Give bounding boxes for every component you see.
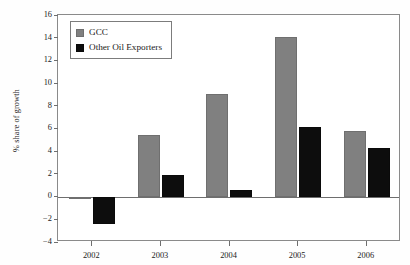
x-axis-label-2003: 2003 bbox=[130, 250, 190, 262]
y-axis-tick-label: 10 bbox=[44, 77, 52, 89]
y-axis-tick-label: 14 bbox=[44, 32, 52, 44]
x-axis: 20022003200420052006 bbox=[57, 241, 400, 265]
bar-group bbox=[264, 15, 333, 240]
y-axis-title: % share of growth bbox=[12, 46, 21, 196]
y-axis-tick-mark bbox=[54, 242, 58, 243]
bar-other-oil-exporters-2002 bbox=[93, 197, 115, 224]
y-axis-tick-label: −4 bbox=[43, 236, 52, 248]
y-axis-tick-label: 12 bbox=[44, 54, 52, 66]
y-axis-tick-label: 4 bbox=[48, 145, 52, 157]
bar-other-oil-exporters-2005 bbox=[299, 127, 321, 196]
x-axis-tick-mark bbox=[91, 241, 92, 246]
x-axis-tick-mark bbox=[160, 241, 161, 246]
y-axis-tick-label: −2 bbox=[43, 213, 52, 225]
bar-other-oil-exporters-2004 bbox=[230, 190, 252, 197]
bar-other-oil-exporters-2006 bbox=[368, 148, 390, 197]
x-axis-label-2002: 2002 bbox=[61, 250, 121, 262]
bar-gcc-2005 bbox=[275, 37, 297, 197]
x-axis-label-2004: 2004 bbox=[199, 250, 259, 262]
bar-group bbox=[58, 15, 127, 240]
bar-gcc-2004 bbox=[206, 94, 228, 196]
y-axis-tick-label: 8 bbox=[48, 100, 52, 112]
y-axis-tick-label: 16 bbox=[44, 9, 52, 21]
y-axis-tick-label: 2 bbox=[48, 168, 52, 180]
bar-gcc-2006 bbox=[344, 131, 366, 197]
y-axis-tick-label: 0 bbox=[48, 190, 52, 202]
bar-group bbox=[195, 15, 264, 240]
x-axis-label-2006: 2006 bbox=[336, 250, 396, 262]
x-axis-tick-mark bbox=[366, 241, 367, 246]
x-axis-tick-mark bbox=[297, 241, 298, 246]
y-axis-tick-label: 6 bbox=[48, 122, 52, 134]
bar-group bbox=[127, 15, 196, 240]
bar-gcc-2003 bbox=[138, 135, 160, 196]
x-axis-tick-mark bbox=[229, 241, 230, 246]
bar-chart-figure: % share of growth 20022003200420052006 G… bbox=[0, 0, 410, 265]
bar-other-oil-exporters-2003 bbox=[162, 175, 184, 197]
plot-area: GCC Other Oil Exporters 1614121086420−2−… bbox=[57, 14, 400, 241]
bar-gcc-2002 bbox=[69, 197, 91, 199]
bar-group bbox=[332, 15, 401, 240]
x-axis-label-2005: 2005 bbox=[267, 250, 327, 262]
